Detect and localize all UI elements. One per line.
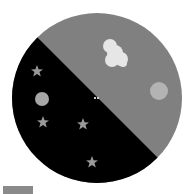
moon-icon	[35, 92, 49, 106]
day-night-dial	[0, 0, 196, 194]
legend-swatch	[3, 186, 33, 194]
sun-icon	[150, 82, 168, 100]
